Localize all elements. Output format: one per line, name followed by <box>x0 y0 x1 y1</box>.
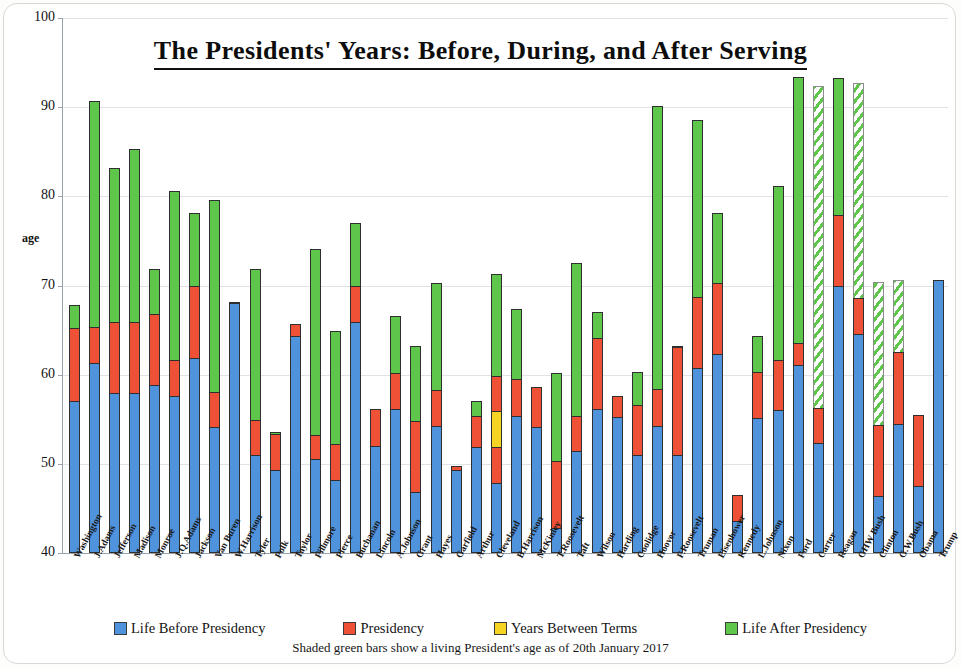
bar-segment-after <box>69 305 80 328</box>
bar-segment-after <box>471 401 482 415</box>
bar-segment-after <box>250 269 261 421</box>
bar-segment-term <box>69 328 80 400</box>
bar-segment-term <box>632 405 643 455</box>
bar-segment-term <box>270 434 281 470</box>
bar-segment-after <box>571 263 582 415</box>
bar-segment-after <box>330 331 341 444</box>
y-tick-label: 70 <box>5 277 55 293</box>
bar-b-harrison <box>511 309 522 553</box>
bar-segment-after <box>129 149 140 322</box>
legend-swatch-presidency <box>343 622 356 635</box>
bar-segment-term <box>672 347 683 455</box>
bar-segment-term <box>531 387 542 427</box>
bar-jefferson <box>109 168 120 553</box>
bar-segment-term <box>330 444 341 480</box>
bar-segment-before <box>431 426 442 554</box>
bar-segment-term <box>410 421 421 492</box>
gridline <box>63 18 948 19</box>
legend-label-life-before: Life Before Presidency <box>131 620 265 637</box>
bar-reagan <box>833 78 844 553</box>
bar-segment-after <box>813 86 824 408</box>
y-tick <box>58 375 63 376</box>
bar-taylor <box>290 324 301 553</box>
bar-segment-before <box>933 280 944 553</box>
bar-eisenhower <box>712 213 723 553</box>
y-tick <box>58 196 63 197</box>
bar-segment-term <box>169 360 180 396</box>
bar-segment-term <box>712 283 723 354</box>
y-tick-label: 100 <box>5 9 55 25</box>
bar-segment-term <box>893 352 904 423</box>
bar-segment-term <box>129 322 140 393</box>
bar-monroe <box>149 269 160 553</box>
bar-segment-after <box>189 213 200 286</box>
bar-segment-term <box>209 392 220 428</box>
legend-label-life-after: Life After Presidency <box>742 620 867 637</box>
bar-nixon <box>773 186 784 553</box>
bar-segment-before <box>592 409 603 553</box>
bar-g-w-bush <box>893 280 904 553</box>
bar-a-johnson <box>390 316 401 553</box>
bar-segment-term <box>612 396 623 417</box>
bar-segment-after <box>149 269 160 314</box>
bar-segment-term <box>592 338 603 409</box>
bar-segment-term <box>793 343 804 364</box>
bar-segment-term <box>752 372 763 418</box>
bar-segment-after <box>89 101 100 327</box>
bar-segment-before <box>69 401 80 553</box>
bar-segment-after <box>773 186 784 361</box>
bar-segment-after <box>893 280 904 352</box>
bar-segment-after <box>592 312 603 338</box>
y-tick-label: 90 <box>5 98 55 114</box>
bar-segment-before <box>793 365 804 553</box>
legend-item-life-after: Life After Presidency <box>725 620 867 637</box>
bar-clinton <box>873 282 884 553</box>
legend-swatch-life-after <box>725 622 738 635</box>
bar-hayes <box>431 283 442 553</box>
bar-segment-before <box>290 336 301 553</box>
bar-segment-after <box>551 373 562 461</box>
bar-polk <box>270 432 281 553</box>
bar-segment-term <box>551 461 562 528</box>
bar-segment-term <box>149 314 160 385</box>
bar-segment-after <box>873 282 884 425</box>
legend-swatch-life-before <box>114 622 127 635</box>
bar-segment-after <box>712 213 723 283</box>
legend-label-years-between-terms: Years Between Terms <box>511 620 637 637</box>
chart-page: The Presidents' Years: Before, During, a… <box>0 0 961 669</box>
bar-carter <box>813 86 824 553</box>
bar-segment-after <box>652 106 663 389</box>
bar-segment-after <box>410 346 421 421</box>
bar-segment-term <box>571 416 582 452</box>
bar-cleveland <box>491 274 502 553</box>
bar-segment-after <box>692 120 703 297</box>
bar-madison <box>129 149 140 553</box>
y-tick-label: 50 <box>5 455 55 471</box>
y-tick-label: 40 <box>5 544 55 560</box>
bar-segment-term <box>491 447 502 483</box>
bar-segment-term <box>189 286 200 357</box>
legend-swatch-years-between-terms <box>494 622 507 635</box>
bar-segment-term <box>370 409 381 446</box>
bar-segment-before <box>853 334 864 553</box>
bar-segment-after <box>431 283 442 390</box>
bar-w-harrison <box>229 302 240 553</box>
bar-segment-after <box>169 191 180 360</box>
bar-taft <box>571 263 582 553</box>
bar-segment-term <box>833 215 844 286</box>
y-tick <box>58 464 63 465</box>
bar-segment-term <box>250 420 261 455</box>
bar-l-johnson <box>752 336 763 553</box>
bar-segment-after <box>310 249 321 435</box>
bar-segment-after <box>853 83 864 298</box>
plot-area <box>62 18 948 554</box>
bar-segment-term <box>109 322 120 393</box>
y-tick-label: 80 <box>5 187 55 203</box>
bar-tyler <box>250 269 261 553</box>
bar-segment-before <box>712 354 723 553</box>
bar-segment-term <box>350 286 361 322</box>
bar-segment-after <box>109 168 120 322</box>
bar-ghw-bush <box>853 83 864 553</box>
bar-segment-term <box>873 425 884 496</box>
bar-segment-after <box>209 200 220 392</box>
